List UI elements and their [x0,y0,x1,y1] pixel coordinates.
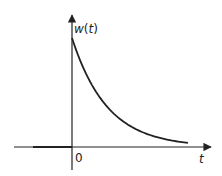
exponential-decay-diagram: w(t) 0 t [0,0,222,176]
origin-label: 0 [75,151,83,165]
y-axis-label: w(t) [74,22,98,36]
w-curve [72,38,188,143]
x-axis-label: t [199,152,205,166]
